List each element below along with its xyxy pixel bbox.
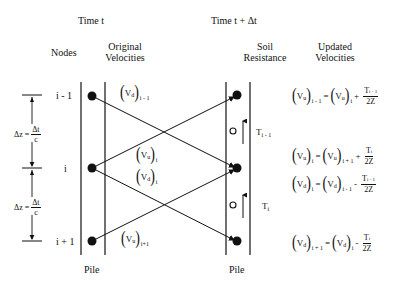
operator: + <box>356 151 361 161</box>
time-t-label: Time t <box>78 15 104 26</box>
time-t-plus-dt-label: Time t + Δt <box>211 15 257 26</box>
node-right-i-plus-1 <box>233 237 242 246</box>
node-label-i-minus-1: i - 1 <box>56 90 72 101</box>
equation-vu-i-minus-1: (Vu)i - 1 = (Vu)i + Ti - 1 2Z <box>292 86 378 106</box>
wave-up-i-to-i-minus-1 <box>92 97 234 168</box>
soil-resistance-header-line1: Soil <box>240 41 290 52</box>
equation-vd-i-plus-1: (Vd)i + 1 = (Vd)i - Ti 2Z <box>292 233 371 253</box>
soil-resistance-header: Soil Resistance <box>240 41 290 63</box>
resistance-index: i - 1 <box>262 132 272 138</box>
original-velocities-header-line2: Velocities <box>100 52 150 63</box>
updated-velocities-header: Updated Velocities <box>310 41 360 63</box>
equation-vu-i: (Vu)i = (Vu)i + 1 + Ti 2Z <box>292 146 373 166</box>
equals-sign: = <box>316 151 321 161</box>
resistance-symbol: T <box>262 201 268 211</box>
soil-resistance-i-minus-1 <box>230 121 243 144</box>
rhs-index: i + 1 <box>342 158 353 164</box>
velocity-node-index: i <box>156 179 158 185</box>
soil-resistance-i <box>230 195 243 218</box>
operator: - <box>356 238 359 248</box>
equals-sign: = <box>316 179 321 189</box>
delta-z-label-upper: Δz = Δt c <box>14 125 41 144</box>
delta-z-fraction: Δt c <box>31 125 40 144</box>
fraction-denominator: 2Z <box>364 185 373 194</box>
resistance-fraction: Ti - 1 2Z <box>363 86 378 106</box>
wave-up-i-plus-1-to-i <box>92 170 234 241</box>
pile-label-left: Pile <box>84 264 100 275</box>
velocity-vd-i: (Vd)i <box>136 172 158 182</box>
delta-z-numerator: Δt <box>31 198 40 208</box>
node-right-i <box>233 164 242 173</box>
fraction-denominator: 2Z <box>366 97 375 106</box>
delta-z-text: Δz = <box>14 203 29 212</box>
resistance-index: i <box>268 206 270 212</box>
velocity-vu-i: (Vu)i <box>136 150 158 160</box>
lhs-index: i <box>312 186 314 192</box>
nodes-header: Nodes <box>51 47 77 58</box>
node-label-i: i <box>64 163 67 174</box>
equation-vd-i: (Vd)i = (Vd)i - 1 - Ti - 1 2Z <box>292 174 376 194</box>
lhs-index: i <box>312 158 314 164</box>
original-velocities-header: Original Velocities <box>100 41 150 63</box>
node-label-i-plus-1: i + 1 <box>56 236 74 247</box>
fraction-numerator-index: i - 1 <box>369 89 377 94</box>
soil-resistance-label-t-i-minus-1: Ti - 1 <box>256 127 271 139</box>
velocity-vd-i-minus-1: (Vd)i - 1 <box>120 88 150 98</box>
lhs-index: i - 1 <box>312 98 322 104</box>
fraction-numerator-index: i - 1 <box>367 177 375 182</box>
velocity-node-index: i+1 <box>141 241 149 247</box>
delta-z-dimension <box>22 95 42 241</box>
soil-resistance-label-t-i: Ti <box>262 201 269 213</box>
operator: - <box>354 179 357 189</box>
fraction-numerator-index: i <box>371 149 372 154</box>
rhs-index: i <box>350 98 352 104</box>
velocity-node-index: i - 1 <box>140 95 150 101</box>
lhs-index: i + 1 <box>312 245 323 251</box>
resistance-symbol: T <box>256 127 262 137</box>
velocity-vu-i-plus-1: (Vu)i+1 <box>121 234 149 244</box>
original-velocities-header-line1: Original <box>100 41 150 52</box>
delta-z-denominator: c <box>34 208 38 217</box>
fraction-numerator-index: i <box>369 236 370 241</box>
operator: + <box>354 91 359 101</box>
fraction-denominator: 2Z <box>363 244 372 253</box>
resistance-fraction: Ti 2Z <box>363 233 372 253</box>
wave-down-i-minus-1-to-i <box>92 96 234 167</box>
delta-z-label-lower: Δz = Δt c <box>14 198 41 217</box>
updated-velocities-header-line1: Updated <box>310 41 360 52</box>
rhs-index: i <box>352 245 354 251</box>
pile-label-right: Pile <box>229 264 245 275</box>
node-right-i-minus-1 <box>233 91 242 100</box>
delta-z-fraction: Δt c <box>31 198 40 217</box>
equals-sign: = <box>325 238 330 248</box>
wave-down-i-to-i-plus-1 <box>92 168 234 240</box>
fraction-denominator: 2Z <box>365 157 374 166</box>
resistance-fraction: Ti 2Z <box>365 146 374 166</box>
velocity-node-index: i <box>156 157 158 163</box>
updated-velocities-header-line2: Velocities <box>310 52 360 63</box>
soil-resistance-header-line2: Resistance <box>240 52 290 63</box>
equals-sign: = <box>324 91 329 101</box>
rhs-index: i - 1 <box>342 186 352 192</box>
delta-z-numerator: Δt <box>31 125 40 135</box>
resistance-fraction: Ti - 1 2Z <box>361 174 376 194</box>
delta-z-denominator: c <box>34 135 38 144</box>
delta-z-text: Δz = <box>14 130 29 139</box>
